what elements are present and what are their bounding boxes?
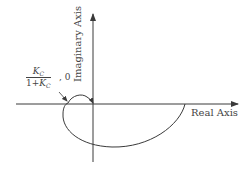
fraction-denominator: 1+KC	[26, 78, 51, 89]
point-annotation-fraction: KC 1+KC	[26, 66, 51, 89]
real-axis-label: Real Axis	[191, 107, 238, 118]
fraction-numerator: KC	[26, 66, 51, 78]
annotation-pointer	[59, 92, 67, 101]
nyquist-curve	[63, 95, 185, 147]
imaginary-axis-label: Imaginary Axis	[72, 6, 83, 82]
point-annotation-suffix: , 0	[59, 72, 70, 82]
